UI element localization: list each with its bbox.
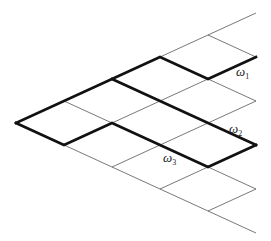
omega-3-label: ω3 [163, 151, 176, 167]
grid-line [208, 189, 256, 211]
grid-line [208, 35, 256, 57]
omega-2-label: ω2 [229, 122, 242, 138]
omega-1-label: ω1 [236, 65, 249, 81]
lattice-path-diagram: ω1 ω2 ω3 [0, 0, 271, 241]
